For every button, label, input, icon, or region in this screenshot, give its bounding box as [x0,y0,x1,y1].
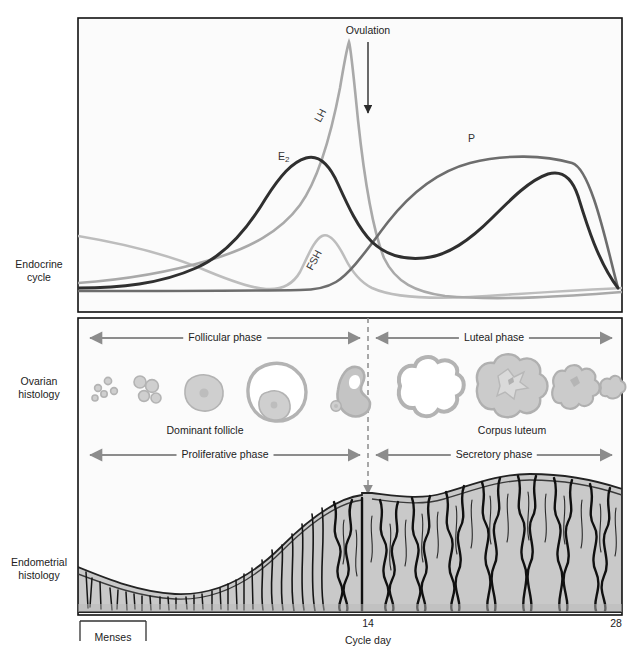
dominant-follicle-label: Dominant follicle [166,424,243,436]
axis-title: Cycle day [345,634,391,646]
row-label-endometrial: Endometrial histology [2,556,76,581]
row-label-endocrine: Endocrine cycle [2,258,76,283]
proliferative-phase-label: Proliferative phase [177,448,274,460]
dominant-follicle-glyph [185,375,223,411]
follicular-phase-label: Follicular phase [183,331,267,343]
figure-canvas [0,0,635,658]
corpus-luteum-regressing-glyph [552,365,599,409]
corpus-luteum-early-glyph [399,357,464,416]
e2-curve-label: E2 [278,150,289,164]
axis-tick-14: 14 [362,617,374,629]
axis-tick-28: 28 [610,617,622,629]
corpus-luteum-label: Corpus luteum [478,424,546,436]
p-curve-label: P [468,132,475,144]
graafian-follicle-glyph [248,363,306,421]
released-ovum [331,401,341,411]
e2-label-sub: 2 [285,155,289,164]
ovulation-label: Ovulation [346,24,390,36]
corpus-luteum-mature-glyph [477,354,548,417]
menstrual-cycle-figure: Endocrine cycle Ovarian histology Endome… [0,0,635,658]
menses-label: Menses [95,631,132,643]
luteal-phase-label: Luteal phase [459,331,529,343]
e2-label-main: E [278,150,285,162]
secretory-phase-label: Secretory phase [451,448,537,460]
row-label-ovarian: Ovarian histology [2,375,76,400]
